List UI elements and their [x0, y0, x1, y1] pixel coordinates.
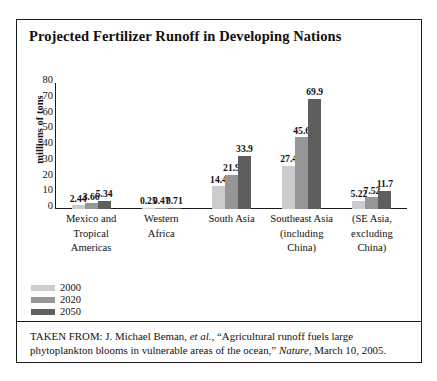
- bar-item[interactable]: 5.34: [98, 83, 111, 209]
- category-label-line: China): [329, 241, 415, 256]
- bar-item[interactable]: 0.47: [155, 83, 168, 209]
- bar-groups-layer: 2.443.665.340.250.470.7114.421.933.927.4…: [56, 83, 407, 209]
- bar-2050[interactable]: [378, 191, 391, 209]
- x-axis-category-labels: Mexico andTropicalAmericasWesternAfricaS…: [56, 212, 407, 282]
- bar-2020[interactable]: [225, 175, 238, 209]
- bar-value-label: 33.9: [236, 144, 253, 154]
- bar-2000[interactable]: [142, 208, 155, 209]
- bar-value-label: 11.7: [377, 179, 393, 189]
- bar-value-label: 5.34: [96, 189, 113, 199]
- bar-group: 2.443.665.34: [56, 83, 126, 209]
- y-axis-tick-50: 50: [31, 122, 53, 132]
- bar-item[interactable]: 14.4: [212, 83, 225, 209]
- category-label-line: (SE Asia,: [329, 212, 415, 227]
- y-axis-tick-80: 80: [31, 75, 53, 85]
- y-axis-tick-60: 60: [31, 107, 53, 117]
- bar-group: 0.250.470.71: [126, 83, 196, 209]
- bar-2050[interactable]: [308, 99, 321, 209]
- category-label-line: Africa: [118, 227, 204, 242]
- bar-2050[interactable]: [168, 208, 181, 209]
- chart-plot-area: millions of tons 80706050403020100 2.443…: [17, 20, 423, 285]
- bar-item[interactable]: 0.25: [142, 83, 155, 209]
- legend-swatch-2020: [31, 297, 55, 303]
- bar-2020[interactable]: [155, 208, 168, 209]
- bar-item[interactable]: 0.71: [168, 83, 181, 209]
- source-etal: et al.: [190, 330, 212, 342]
- legend-item-2020[interactable]: 2020: [31, 295, 81, 306]
- bar-2020[interactable]: [85, 203, 98, 209]
- divider: [17, 321, 421, 322]
- category-label-line: Americas: [48, 241, 134, 256]
- source-suffix: , March 10, 2005.: [309, 344, 386, 356]
- legend-item-2050[interactable]: 2050: [31, 307, 81, 318]
- y-axis-tick-40: 40: [31, 138, 53, 148]
- bar-2000[interactable]: [282, 166, 295, 209]
- legend-swatch-2000: [31, 285, 55, 291]
- category-label-line: excluding: [329, 227, 415, 242]
- y-axis-tick-20: 20: [31, 170, 53, 180]
- bar-value-label: 69.9: [306, 87, 323, 97]
- bar-2020[interactable]: [365, 197, 378, 209]
- legend-swatch-2050: [31, 309, 55, 315]
- legend-label: 2020: [60, 295, 81, 306]
- source-prefix: TAKEN FROM: J. Michael Beman,: [30, 330, 187, 342]
- bar-item[interactable]: 45.6: [295, 83, 308, 209]
- chart-legend: 200020202050: [31, 283, 81, 319]
- figure-card: Projected Fertilizer Runoff in Developin…: [16, 19, 422, 363]
- bar-item[interactable]: 27.4: [282, 83, 295, 209]
- bar-item[interactable]: 33.9: [238, 83, 251, 209]
- source-journal: Nature: [279, 344, 309, 356]
- bar-2050[interactable]: [98, 201, 111, 209]
- y-axis-tick-10: 10: [31, 185, 53, 195]
- bar-group: 27.445.669.9: [267, 83, 337, 209]
- category-label: (SE Asia,excludingChina): [329, 212, 415, 256]
- bar-group: 5.227.5211.7: [337, 83, 407, 209]
- legend-item-2000[interactable]: 2000: [31, 283, 81, 294]
- y-axis-tick-30: 30: [31, 154, 53, 164]
- bar-2000[interactable]: [72, 205, 85, 209]
- legend-label: 2000: [60, 283, 81, 294]
- y-axis-tick-70: 70: [31, 91, 53, 101]
- bar-2020[interactable]: [295, 137, 308, 209]
- source-caption: TAKEN FROM: J. Michael Beman, et al., “A…: [30, 329, 412, 358]
- bar-item[interactable]: 7.52: [365, 83, 378, 209]
- bar-value-label: 0.71: [166, 196, 183, 206]
- bar-2050[interactable]: [238, 156, 251, 209]
- bar-2000[interactable]: [212, 186, 225, 209]
- y-axis-tick-0: 0: [31, 201, 53, 211]
- bar-group: 14.421.933.9: [196, 83, 266, 209]
- y-axis-tick-labels: 80706050403020100: [29, 80, 53, 210]
- legend-label: 2050: [60, 307, 81, 318]
- bar-2000[interactable]: [352, 201, 365, 209]
- bar-item[interactable]: 69.9: [308, 83, 321, 209]
- bar-item[interactable]: 11.7: [378, 83, 391, 209]
